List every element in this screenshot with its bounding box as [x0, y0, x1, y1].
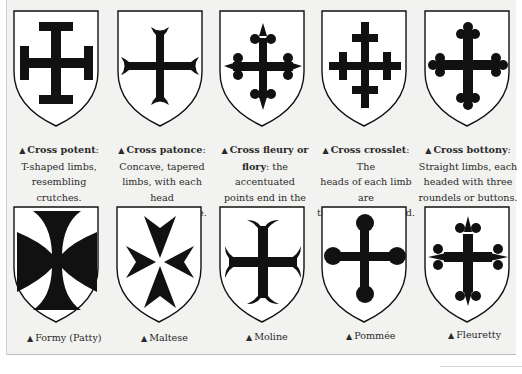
- shield-moline: [219, 206, 307, 326]
- shield-cross-crosslet: [321, 10, 409, 130]
- shield-maltese: [116, 206, 204, 326]
- shield-cross-patonce: [117, 10, 205, 130]
- label-fleuretty: ▲Fleuretty: [448, 329, 501, 340]
- triangle-marker-icon: ▲: [246, 333, 252, 342]
- triangle-marker-icon: ▲: [118, 146, 124, 155]
- caption-cross-potent: ▲Cross potent: T-shaped limbs, resemblin…: [8, 142, 110, 205]
- divider: [440, 366, 522, 367]
- shield-fleuretty: [424, 206, 512, 326]
- shield-cross-fleury: [219, 10, 307, 130]
- label-pommee: ▲Pommée: [346, 330, 396, 341]
- label-maltese: ▲Maltese: [141, 332, 188, 343]
- triangle-marker-icon: ▲: [222, 146, 228, 155]
- shield-pommee: [321, 206, 409, 326]
- triangle-marker-icon: ▲: [425, 146, 431, 155]
- caption-cross-bottony: ▲Cross bottony: Straight limbs, each hea…: [418, 142, 518, 205]
- label-moline: ▲Moline: [246, 331, 288, 342]
- triangle-marker-icon: ▲: [19, 146, 25, 155]
- shield-cross-potent: [13, 10, 101, 130]
- triangle-marker-icon: ▲: [27, 334, 33, 343]
- label-formy: ▲Formy (Patty): [27, 332, 102, 343]
- triangle-marker-icon: ▲: [448, 331, 454, 340]
- triangle-marker-icon: ▲: [323, 146, 329, 155]
- shield-cross-bottony: [424, 10, 512, 130]
- triangle-marker-icon: ▲: [141, 334, 147, 343]
- triangle-marker-icon: ▲: [346, 332, 352, 341]
- shield-formy: [13, 206, 101, 326]
